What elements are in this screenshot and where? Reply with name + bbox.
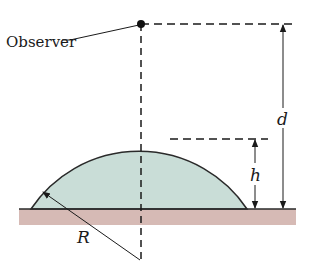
ground bbox=[19, 209, 296, 225]
R-label: R bbox=[77, 227, 90, 247]
dome bbox=[31, 151, 247, 209]
observer-label: Observer bbox=[6, 33, 76, 51]
observer-point bbox=[137, 20, 145, 28]
d-label: d bbox=[277, 109, 288, 129]
h-label: h bbox=[250, 165, 261, 185]
